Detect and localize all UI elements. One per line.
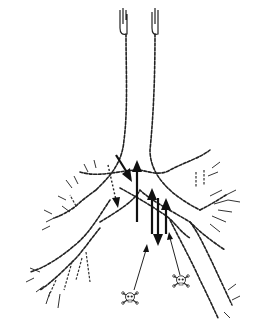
- chain-left-twig-4: [86, 252, 90, 282]
- skull-crossbones-icon-left: [122, 292, 139, 305]
- hook-right-icon: [152, 8, 158, 34]
- arrow-diag-down-icon: [116, 155, 132, 182]
- arrow-up-2-icon: [147, 188, 157, 234]
- right-twigs: [208, 162, 240, 318]
- chain-right-branch-lower: [170, 220, 218, 318]
- chain-cross-1: [80, 150, 210, 174]
- hook-left-icon: [120, 8, 127, 34]
- chain-left-twig-1: [70, 195, 76, 206]
- airway-chain-diagram: [0, 0, 263, 334]
- chain-right-main: [150, 34, 200, 210]
- chain-right-branch-upper: [200, 195, 226, 210]
- chain-left-main: [96, 34, 127, 190]
- chain-right-branch-mid: [190, 222, 232, 305]
- pointer-arrow-left-icon: [134, 244, 149, 290]
- chain-left-twig-2: [76, 258, 82, 280]
- pointer-arrow-right-icon: [167, 232, 180, 275]
- arrow-up-3-icon: [161, 198, 171, 234]
- chain-left-branch-mid: [40, 228, 100, 290]
- skull-crossbones-icon-right: [173, 275, 190, 288]
